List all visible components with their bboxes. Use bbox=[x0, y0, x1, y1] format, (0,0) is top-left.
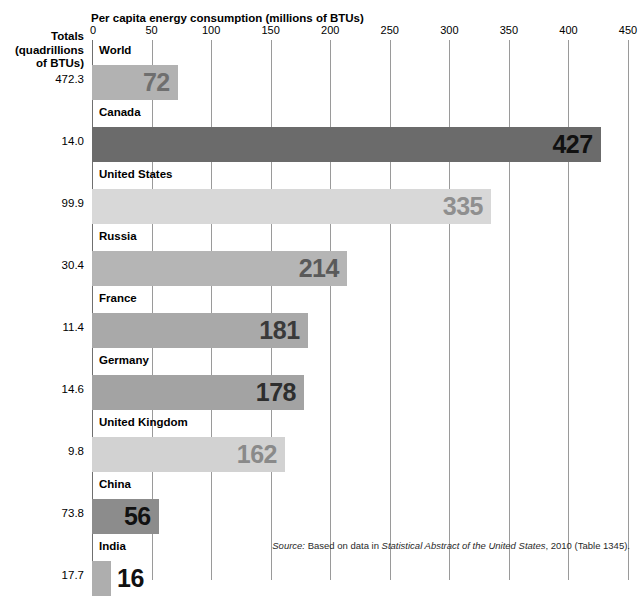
x-axis-tick-labels: 050100150200250300350400450 bbox=[92, 24, 628, 38]
x-tick-label-250: 250 bbox=[381, 24, 399, 36]
x-tick-label-300: 300 bbox=[440, 24, 458, 36]
total-cell: 14.6 bbox=[0, 350, 84, 412]
total-cell: 30.4 bbox=[0, 226, 84, 288]
x-tick-label-0: 0 bbox=[90, 24, 96, 36]
total-cell: 17.7 bbox=[0, 536, 84, 598]
category-label: India bbox=[99, 540, 126, 552]
source-lead: Based on data in bbox=[305, 540, 382, 551]
x-tick-label-50: 50 bbox=[145, 24, 157, 36]
bar-value-label: 178 bbox=[92, 375, 296, 410]
category-label: Canada bbox=[99, 106, 141, 118]
x-tick-label-350: 350 bbox=[500, 24, 518, 36]
bar-value-label: 181 bbox=[92, 313, 300, 348]
table-row: World72 bbox=[92, 40, 628, 102]
bar-value-label: 335 bbox=[92, 189, 483, 224]
bar bbox=[92, 561, 111, 596]
table-row: Russia214 bbox=[92, 226, 628, 288]
total-value: 17.7 bbox=[62, 569, 84, 581]
x-tick-label-100: 100 bbox=[202, 24, 220, 36]
table-row: Germany178 bbox=[92, 350, 628, 412]
total-value: 73.8 bbox=[62, 507, 84, 519]
x-tick-label-150: 150 bbox=[261, 24, 279, 36]
table-row: United States335 bbox=[92, 164, 628, 226]
bar-value-label: 56 bbox=[92, 499, 151, 534]
total-value: 99.9 bbox=[62, 197, 84, 209]
category-label: China bbox=[99, 478, 131, 490]
gridline-450 bbox=[628, 40, 629, 580]
total-value: 14.0 bbox=[62, 135, 84, 147]
total-value: 14.6 bbox=[62, 383, 84, 395]
total-value: 30.4 bbox=[62, 259, 84, 271]
source-publication-title: Statistical Abstract of the United State… bbox=[382, 540, 546, 551]
x-tick-label-450: 450 bbox=[619, 24, 637, 36]
category-label: United Kingdom bbox=[99, 416, 188, 428]
total-cell: 9.8 bbox=[0, 412, 84, 474]
total-cell: 11.4 bbox=[0, 288, 84, 350]
total-value: 9.8 bbox=[68, 445, 84, 457]
bar-value-label: 72 bbox=[92, 65, 170, 100]
bar-rows: World72Canada427United States335Russia21… bbox=[92, 40, 628, 598]
category-label: United States bbox=[99, 168, 173, 180]
category-label: France bbox=[99, 292, 137, 304]
x-axis-title: Per capita energy consumption (millions … bbox=[91, 12, 364, 24]
total-cell: 99.9 bbox=[0, 164, 84, 226]
table-row: United Kingdom162 bbox=[92, 412, 628, 474]
category-label: Germany bbox=[99, 354, 149, 366]
total-cell: 73.8 bbox=[0, 474, 84, 536]
total-value: 11.4 bbox=[62, 321, 84, 333]
category-label: Russia bbox=[99, 230, 137, 242]
bar-value-label: 214 bbox=[92, 251, 339, 286]
source-suffix: , 2010 (Table 1345). bbox=[545, 540, 630, 551]
total-value: 472.3 bbox=[55, 73, 84, 85]
total-cell: 14.0 bbox=[0, 102, 84, 164]
bar-value-label: 427 bbox=[92, 127, 593, 162]
category-label: World bbox=[99, 44, 131, 56]
total-cell: 472.3 bbox=[0, 40, 84, 102]
bar-value-label: 16 bbox=[117, 561, 144, 596]
table-row: France181 bbox=[92, 288, 628, 350]
bar-value-label: 162 bbox=[92, 437, 277, 472]
table-row: China56 bbox=[92, 474, 628, 536]
source-label: Source: bbox=[272, 540, 305, 551]
source-note: Source: Based on data in Statistical Abs… bbox=[272, 540, 630, 551]
x-tick-label-400: 400 bbox=[559, 24, 577, 36]
x-tick-label-200: 200 bbox=[321, 24, 339, 36]
totals-value-column: 472.314.099.930.411.414.69.873.817.7 bbox=[0, 40, 84, 598]
table-row: Canada427 bbox=[92, 102, 628, 164]
